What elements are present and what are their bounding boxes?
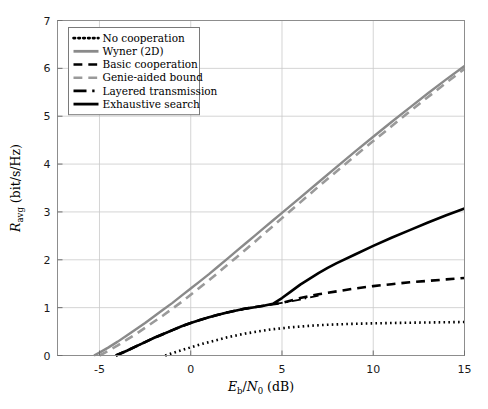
x-tick-label: 10 — [366, 363, 380, 376]
y-tick-label: 5 — [44, 110, 51, 123]
curve-no-cooperation — [165, 322, 464, 356]
x-tick-label: 15 — [458, 363, 472, 376]
x-tick-label: 0 — [187, 363, 194, 376]
curve-exhaustive-search — [116, 209, 465, 356]
legend-label: No cooperation — [103, 32, 185, 44]
legend-label: Layered transmission — [103, 85, 218, 97]
legend-label: Wyner (2D) — [103, 45, 164, 57]
y-tick-label: 0 — [44, 350, 51, 363]
curve-layered-transmission — [116, 296, 319, 356]
x-tick-label: -5 — [94, 363, 105, 376]
y-tick-label: 7 — [44, 15, 51, 28]
y-tick-label: 2 — [44, 254, 51, 267]
legend-label: Genie-aided bound — [103, 71, 204, 83]
y-tick-label: 4 — [44, 158, 51, 171]
x-axis-title: Eb/N0 (dB) — [227, 379, 294, 396]
legend: No cooperationWyner (2D)Basic cooperatio… — [69, 28, 218, 115]
plot-canvas: 01234567-5051015 No cooperationWyner (2D… — [0, 0, 488, 409]
curve-basic-cooperation — [116, 278, 465, 356]
legend-label: Basic cooperation — [103, 58, 199, 70]
y-tick-label: 1 — [44, 302, 51, 315]
chart-figure: 01234567-5051015 No cooperationWyner (2D… — [0, 0, 488, 409]
y-tick-label: 6 — [44, 62, 51, 75]
legend-label: Exhaustive search — [103, 98, 201, 110]
y-axis-title: Ravg (bit/s/Hz) — [8, 144, 25, 233]
x-tick-label: 5 — [278, 363, 285, 376]
y-tick-label: 3 — [44, 206, 51, 219]
